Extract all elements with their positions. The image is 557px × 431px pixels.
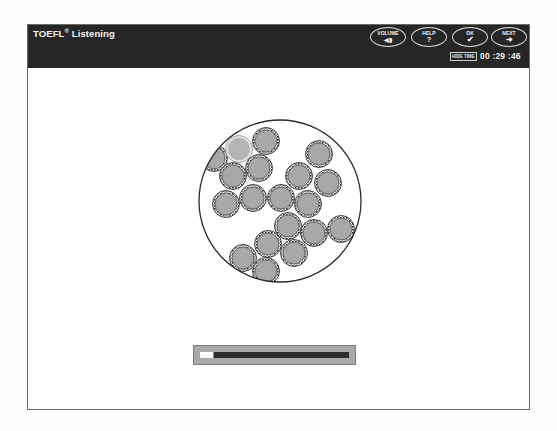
cell-core xyxy=(215,193,237,215)
cell-core xyxy=(283,242,305,264)
cell-core xyxy=(232,247,254,269)
cell-core xyxy=(222,165,244,187)
progress-fill xyxy=(200,352,214,358)
cell-core xyxy=(228,138,250,160)
cell-core xyxy=(317,172,339,194)
cell-core xyxy=(270,187,292,209)
progress-track xyxy=(200,352,349,358)
cells-group xyxy=(201,128,355,285)
audio-progress-bar xyxy=(193,345,356,365)
cell-core xyxy=(242,187,264,209)
cell-core xyxy=(303,222,325,244)
cell-core xyxy=(255,130,277,152)
cell-core xyxy=(308,143,330,165)
cell-core xyxy=(330,218,352,240)
cell-core xyxy=(248,157,270,179)
cell-core xyxy=(277,215,299,237)
cell-core xyxy=(203,147,225,169)
test-window: TOEFL® Listening VOLUME ◀▮ HELP ? OK ✔ N… xyxy=(27,24,530,410)
cell-core xyxy=(288,165,310,187)
cell-core xyxy=(257,233,279,255)
cell-core xyxy=(297,193,319,215)
